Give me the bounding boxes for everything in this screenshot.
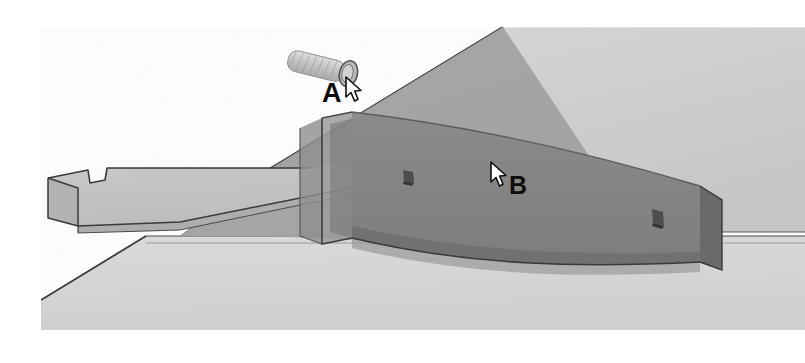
mouse-cursor-icon-b <box>489 161 509 189</box>
callout-label-a: A <box>322 80 342 107</box>
render-canvas: A B <box>0 0 805 363</box>
mounting-hole-right <box>652 209 664 229</box>
mounting-hole-left <box>403 170 414 186</box>
mouse-cursor-icon-a <box>344 76 364 104</box>
assembly-3d-illustration <box>0 0 805 363</box>
callout-label-b: B <box>509 173 527 198</box>
